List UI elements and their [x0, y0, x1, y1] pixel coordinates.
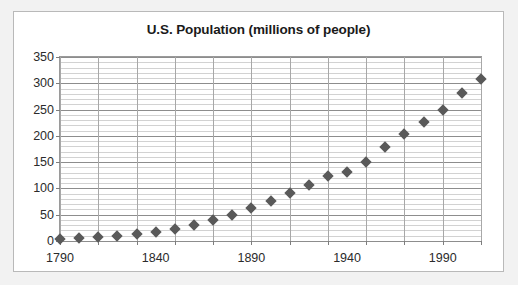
gridline-minor-horizontal	[60, 173, 481, 174]
data-point-marker	[112, 230, 123, 241]
gridline-minor-horizontal	[60, 89, 481, 90]
gridline-minor-horizontal	[60, 141, 481, 142]
x-axis-tick-mark	[251, 241, 252, 245]
y-axis-tick-mark	[56, 83, 60, 84]
gridline-vertical	[404, 57, 405, 241]
chart-title: U.S. Population (millions of people)	[14, 22, 503, 37]
gridline-vertical	[213, 57, 214, 241]
gridline-minor-horizontal	[60, 157, 481, 158]
gridline-minor-horizontal	[60, 146, 481, 147]
x-axis-tick-mark	[137, 241, 138, 245]
y-axis-tick-mark	[56, 162, 60, 163]
gridline-minor-horizontal	[60, 104, 481, 105]
y-axis-tick-label: 150	[12, 155, 54, 169]
y-axis-tick-mark	[56, 136, 60, 137]
y-axis-tick-mark	[56, 188, 60, 189]
gridline-vertical	[481, 57, 482, 241]
gridline-minor-horizontal	[60, 99, 481, 100]
gridline-minor-horizontal	[60, 209, 481, 210]
gridline-minor-horizontal	[60, 178, 481, 179]
gridline-minor-horizontal	[60, 73, 481, 74]
x-axis-tick-mark	[328, 241, 329, 245]
x-axis-tick-label: 1840	[142, 251, 170, 265]
data-point-marker	[227, 209, 238, 220]
gridline-minor-horizontal	[60, 152, 481, 153]
data-point-marker	[73, 233, 84, 244]
gridline-minor-horizontal	[60, 125, 481, 126]
x-axis-tick-label: 1940	[333, 251, 361, 265]
gridline-vertical	[60, 57, 61, 241]
y-axis-tick-label: 250	[12, 103, 54, 117]
gridline-vertical	[290, 57, 291, 241]
y-axis-tick-label: 100	[12, 181, 54, 195]
x-axis-tick-mark	[290, 241, 291, 245]
y-axis-tick-label: 200	[12, 129, 54, 143]
gridline-major-horizontal	[60, 136, 481, 137]
gridline-major-horizontal	[60, 188, 481, 189]
x-axis-tick-label: 1890	[237, 251, 265, 265]
gridline-major-horizontal	[60, 162, 481, 163]
plot-area: 0501001502002503003501790184018901940199…	[59, 56, 482, 242]
y-axis-tick-label: 350	[12, 50, 54, 64]
gridline-minor-horizontal	[60, 131, 481, 132]
x-axis-tick-mark	[175, 241, 176, 245]
gridline-vertical	[443, 57, 444, 241]
gridline-vertical	[366, 57, 367, 241]
gridline-major-horizontal	[60, 241, 481, 242]
y-axis-tick-mark	[56, 215, 60, 216]
gridline-minor-horizontal	[60, 225, 481, 226]
x-axis-tick-label: 1790	[46, 251, 74, 265]
gridline-minor-horizontal	[60, 78, 481, 79]
y-axis-tick-label: 50	[12, 208, 54, 222]
x-axis-tick-mark	[481, 241, 482, 245]
gridline-minor-horizontal	[60, 68, 481, 69]
y-axis-tick-mark	[56, 57, 60, 58]
y-axis-tick-label: 300	[12, 76, 54, 90]
x-axis-tick-mark	[404, 241, 405, 245]
chart-panel: U.S. Population (millions of people) 050…	[13, 11, 504, 272]
gridline-minor-horizontal	[60, 183, 481, 184]
gridline-major-horizontal	[60, 110, 481, 111]
y-axis-tick-mark	[56, 110, 60, 111]
gridline-major-horizontal	[60, 57, 481, 58]
x-axis-tick-mark	[443, 241, 444, 245]
gridline-minor-horizontal	[60, 115, 481, 116]
gridline-minor-horizontal	[60, 236, 481, 237]
gridline-minor-horizontal	[60, 167, 481, 168]
x-axis-tick-label: 1990	[429, 251, 457, 265]
gridline-minor-horizontal	[60, 62, 481, 63]
gridline-major-horizontal	[60, 83, 481, 84]
gridline-vertical	[137, 57, 138, 241]
gridline-minor-horizontal	[60, 230, 481, 231]
gridline-vertical	[175, 57, 176, 241]
gridline-vertical	[251, 57, 252, 241]
gridline-major-horizontal	[60, 215, 481, 216]
gridline-minor-horizontal	[60, 94, 481, 95]
x-axis-tick-mark	[213, 241, 214, 245]
y-axis-tick-label: 0	[12, 234, 54, 248]
gridline-minor-horizontal	[60, 220, 481, 221]
gridline-vertical	[328, 57, 329, 241]
x-axis-tick-mark	[366, 241, 367, 245]
gridline-vertical	[98, 57, 99, 241]
